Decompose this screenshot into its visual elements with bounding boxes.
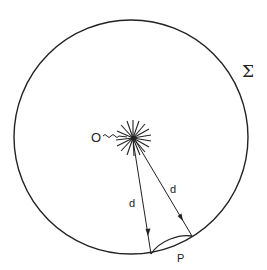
wavy-pointer [103, 135, 127, 138]
diagram-canvas: O d d P Σ [0, 0, 267, 270]
arrowhead-left-icon [146, 229, 151, 237]
surface-label: Σ [242, 61, 254, 81]
source-label: O [91, 130, 101, 145]
starburst-source-icon [116, 120, 151, 156]
ray-right [135, 140, 192, 236]
distance-label-right: d [170, 183, 176, 195]
distance-label-left: d [129, 197, 135, 209]
arrowhead-right-icon [178, 214, 184, 222]
patch-label: P [177, 252, 184, 264]
ray-left [133, 140, 151, 254]
